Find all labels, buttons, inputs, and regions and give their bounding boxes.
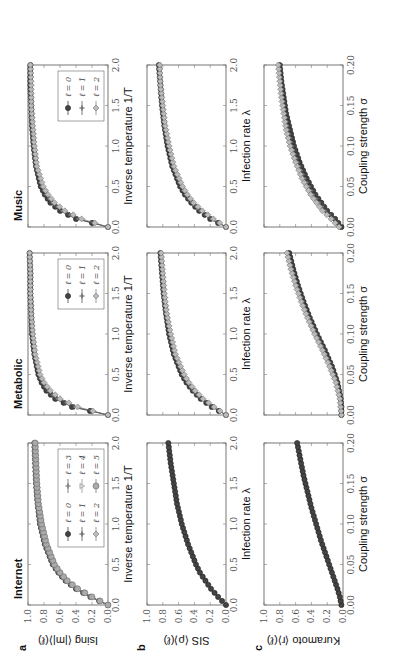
y-axis-label-a: Ising ⟨|m|⟩(ℓ) [38, 635, 98, 647]
x-axis-label: Infection rate λ [240, 297, 252, 370]
panel-a-metabolic: 0.00.51.01.52.0Inverse temperature 1/Tℓ … [27, 246, 134, 423]
y-tick-label: 0.2 [322, 609, 332, 623]
x-tick-label: 0.20 [346, 433, 356, 453]
y-tick-label: 0.4 [189, 609, 199, 624]
row-letter-b: b [135, 644, 147, 651]
y-tick-label: 0.8 [158, 609, 168, 624]
x-tick-label: 2.0 [111, 58, 121, 73]
x-tick-label: 0.00 [346, 405, 356, 425]
y-tick-label: 0.0 [338, 609, 348, 624]
x-axis-label: Coupling strength σ [357, 476, 369, 572]
x-axis-label: Inverse temperature 1/T [122, 465, 134, 583]
legend-music: ℓ = 0ℓ = 1ℓ = 2 [58, 71, 104, 121]
x-tick-label: 0.10 [346, 324, 356, 344]
x-axis-label: Coupling strength σ [357, 98, 369, 194]
panel-c-music: 0.000.050.100.150.20Coupling strength σ [264, 55, 369, 237]
y-tick-label: 0.6 [55, 609, 65, 624]
legend-entry: ℓ = 1 [78, 77, 87, 97]
x-axis-label: Infection rate λ [240, 109, 252, 182]
y-tick-label: 1.0 [142, 609, 152, 624]
legend-entry: ℓ = 2 [92, 503, 101, 523]
panel-c-internet: 0.000.050.100.150.200.00.20.40.60.81.0Co… [259, 433, 369, 624]
panel-a-internet: 0.00.51.01.52.00.00.20.40.60.81.0Inverse… [23, 436, 134, 624]
legend-entry: ℓ = 0 [64, 265, 73, 285]
column-title-metabolic: Metabolic [12, 358, 24, 409]
legend-entry: ℓ = 1 [78, 265, 87, 285]
row-letter-a: a [16, 644, 28, 651]
x-tick-label: 0.05 [346, 176, 356, 196]
x-tick-label: 1.5 [111, 98, 121, 113]
x-tick-label: 2.0 [111, 246, 121, 261]
x-tick-label: 1.5 [229, 286, 239, 301]
x-tick-label: 2.0 [229, 436, 239, 451]
x-tick-label: 0.00 [346, 217, 356, 237]
legend-entry: ℓ = 0 [64, 77, 73, 97]
x-tick-label: 1.5 [229, 476, 239, 491]
x-tick-label: 0.5 [111, 179, 121, 194]
x-tick-label: 1.5 [229, 98, 239, 113]
rotated-figure: 0.00.51.01.52.00.00.20.40.60.81.0Inverse… [0, 0, 401, 655]
x-tick-label: 0.0 [111, 220, 121, 235]
x-tick-label: 2.0 [111, 436, 121, 451]
figure-canvas: 0.00.51.01.52.00.00.20.40.60.81.0Inverse… [0, 0, 401, 655]
y-tick-label: 0.6 [291, 609, 301, 624]
legend-entry: ℓ = 4 [78, 455, 87, 475]
y-tick-label: 0.0 [221, 609, 231, 624]
x-tick-label: 1.5 [111, 476, 121, 491]
x-tick-label: 0.15 [346, 283, 356, 303]
y-tick-label: 1.0 [23, 609, 33, 624]
y-tick-label: 0.4 [71, 609, 81, 624]
x-tick-label: 0.0 [229, 408, 239, 423]
x-tick-label: 0.20 [346, 243, 356, 263]
y-tick-label: 0.4 [306, 609, 316, 624]
y-axis-label-c: Kuramoto ⟨r⟩(ℓ) [267, 635, 340, 647]
y-axis-label-b: SIS ⟨ρ⟩(ℓ) [164, 635, 210, 647]
x-tick-label: 0.5 [111, 367, 121, 382]
x-tick-label: 1.0 [111, 139, 121, 154]
legend-entry: ℓ = 0 [64, 503, 73, 523]
panel-c-metabolic: 0.000.050.100.150.20Coupling strength σ [264, 243, 369, 425]
column-title-music: Music [12, 190, 24, 221]
legend-entry: ℓ = 3 [64, 455, 73, 475]
x-tick-label: 0.5 [111, 557, 121, 572]
y-tick-label: 0.8 [275, 609, 285, 624]
x-axis-label: Inverse temperature 1/T [122, 275, 134, 393]
x-tick-label: 0.0 [229, 220, 239, 235]
y-tick-label: 0.2 [205, 609, 215, 623]
x-tick-label: 0.5 [229, 557, 239, 572]
x-tick-label: 0.10 [346, 514, 356, 534]
x-tick-label: 0.15 [346, 95, 356, 115]
x-tick-label: 1.0 [229, 327, 239, 342]
row-letter-c: c [252, 645, 264, 651]
x-tick-label: 0.5 [229, 179, 239, 194]
panel-b-music: 0.00.51.01.52.0Infection rate λ [147, 58, 252, 235]
legend-entry: ℓ = 1 [78, 503, 87, 523]
panel-b-internet: 0.00.51.01.52.00.00.20.40.60.81.0Infecti… [142, 436, 252, 624]
y-tick-label: 0.0 [103, 609, 113, 624]
x-axis-label: Inverse temperature 1/T [122, 87, 134, 205]
x-tick-label: 0.20 [346, 55, 356, 75]
panel-a-music: 0.00.51.01.52.0Inverse temperature 1/Tℓ … [27, 58, 134, 235]
y-tick-label: 0.6 [174, 609, 184, 624]
column-title-internet: Internet [12, 558, 24, 599]
x-tick-label: 0.05 [346, 364, 356, 384]
x-tick-label: 0.05 [346, 554, 356, 574]
x-axis-label: Infection rate λ [240, 487, 252, 560]
x-tick-label: 1.0 [229, 139, 239, 154]
x-tick-label: 1.0 [229, 517, 239, 532]
panel-b-metabolic: 0.00.51.01.52.0Infection rate λ [147, 246, 252, 423]
x-tick-label: 0.10 [346, 136, 356, 156]
legend-entry: ℓ = 2 [92, 265, 101, 285]
x-tick-label: 0.0 [111, 408, 121, 423]
x-tick-label: 2.0 [229, 58, 239, 73]
x-tick-label: 2.0 [229, 246, 239, 261]
x-axis-label: Coupling strength σ [357, 286, 369, 382]
y-tick-label: 0.8 [39, 609, 49, 624]
x-tick-label: 0.15 [346, 473, 356, 493]
legend-entry: ℓ = 2 [92, 77, 101, 97]
legend-entry: ℓ = 5 [92, 455, 101, 475]
legend-internet: ℓ = 0ℓ = 1ℓ = 2ℓ = 3ℓ = 4ℓ = 5 [58, 449, 104, 547]
x-tick-label: 0.5 [229, 367, 239, 382]
y-tick-label: 1.0 [259, 609, 269, 624]
x-tick-label: 1.5 [111, 286, 121, 301]
